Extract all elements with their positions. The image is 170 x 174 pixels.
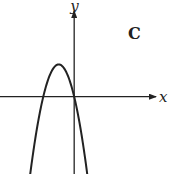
parabola-curve <box>30 64 87 174</box>
x-axis-label: x <box>159 88 168 106</box>
y-axis-label: y <box>69 0 79 15</box>
panel-label: C <box>128 24 141 43</box>
chart: x y C <box>0 0 170 174</box>
